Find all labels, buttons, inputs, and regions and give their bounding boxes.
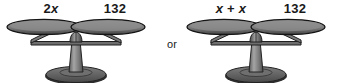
right-pan-surface xyxy=(74,20,142,31)
left-pan-surface xyxy=(10,20,78,31)
right-pan-surface xyxy=(254,20,322,31)
left-scale-apparatus xyxy=(6,18,158,83)
left-scale-left-pan-label: 2x xyxy=(20,1,82,16)
right-scale-term-2: x xyxy=(239,1,246,16)
left-scale-coefficient: 2 xyxy=(44,1,51,16)
balance-scale-figure: 2x 132 xyxy=(0,0,344,83)
right-scale-right-pan-label: 132 xyxy=(264,1,326,16)
left-balance-scale: 2x 132 xyxy=(6,0,158,83)
right-scale-svg xyxy=(186,18,338,83)
right-scale-left-pan-label: x + x xyxy=(200,1,262,16)
left-scale-right-pan-label: 132 xyxy=(84,1,146,16)
left-scale-variable: x xyxy=(51,1,58,16)
right-balance-scale: x + x 132 xyxy=(186,0,338,83)
right-scale-apparatus xyxy=(186,18,338,83)
left-pan-surface xyxy=(190,20,258,31)
right-scale-term-1: x xyxy=(216,1,223,16)
or-connector-text: or xyxy=(158,38,186,51)
right-scale-operator: + xyxy=(227,1,235,16)
left-scale-svg xyxy=(6,18,158,83)
